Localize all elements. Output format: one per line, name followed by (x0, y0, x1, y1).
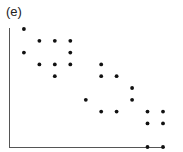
data-point (38, 39, 42, 43)
data-point (115, 110, 119, 114)
data-point (53, 63, 57, 67)
data-point (68, 39, 72, 43)
data-point (161, 122, 165, 126)
data-point (38, 63, 42, 67)
data-point (146, 145, 150, 149)
data-point (53, 74, 57, 78)
data-point (161, 110, 165, 114)
data-point (22, 51, 26, 55)
data-point (53, 39, 57, 43)
data-point (161, 145, 165, 149)
data-point (99, 110, 103, 114)
data-point (130, 86, 134, 90)
data-point (115, 74, 119, 78)
data-point (130, 98, 134, 102)
data-point (99, 63, 103, 67)
data-point (146, 110, 150, 114)
data-point (68, 51, 72, 55)
data-point (68, 63, 72, 67)
data-point (22, 27, 26, 31)
data-point (146, 122, 150, 126)
scatter-plot (0, 0, 183, 152)
data-point (84, 98, 88, 102)
data-point (99, 74, 103, 78)
